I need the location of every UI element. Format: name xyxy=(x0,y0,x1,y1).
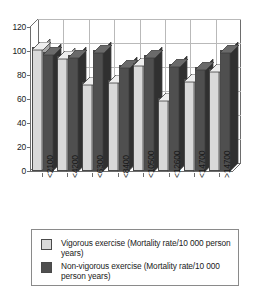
y-tick-label-60: 60 xyxy=(0,95,26,104)
x-tick-mark-7 xyxy=(219,173,220,177)
legend-label-vigorous: Vigorous exercise (Mortality rate/10 000… xyxy=(61,238,233,258)
y-tick-mark-100 xyxy=(27,51,31,52)
x-tick-mark-5 xyxy=(169,173,170,177)
chart-legend: Vigorous exercise (Mortality rate/10 000… xyxy=(31,229,239,286)
x-tick-mark-2 xyxy=(92,173,93,177)
y-tick-label-120: 120 xyxy=(0,23,26,32)
y-tick-mark-0 xyxy=(27,171,31,172)
y-tick-label-100: 100 xyxy=(0,47,26,56)
y-tick-mark-60 xyxy=(27,99,31,100)
legend-item-vigorous: Vigorous exercise (Mortality rate/10 000… xyxy=(41,238,233,258)
bar-vigorous-0 xyxy=(32,47,43,171)
bar-chart-figure: 020406080100120 <2100<4200<6300<8400<105… xyxy=(0,0,254,293)
x-tick-label-4: <10500 xyxy=(147,132,156,178)
y-tick-mark-120 xyxy=(27,27,31,28)
x-tick-label-6: <14700 xyxy=(198,132,207,178)
y-tick-label-40: 40 xyxy=(0,119,26,128)
x-tick-mark-0 xyxy=(42,173,43,177)
x-tick-label-1: <4200 xyxy=(71,132,80,178)
x-tick-mark-6 xyxy=(194,173,195,177)
legend-swatch-vigorous xyxy=(41,239,52,250)
bar-vigorous-7 xyxy=(209,69,220,171)
y-tick-mark-80 xyxy=(27,75,31,76)
bar-vigorous-6 xyxy=(184,79,195,171)
x-tick-mark-1 xyxy=(67,173,68,177)
legend-label-non-vigorous: Non-vigorous exercise (Mortality rate/10… xyxy=(61,261,233,281)
x-tick-label-2: <6300 xyxy=(96,132,105,178)
x-tick-label-5: <12600 xyxy=(173,132,182,178)
y-tick-label-80: 80 xyxy=(0,71,26,80)
x-tick-mark-3 xyxy=(118,173,119,177)
legend-swatch-non-vigorous xyxy=(41,262,52,273)
bar-vigorous-5 xyxy=(158,98,169,171)
x-tick-label-3: <8400 xyxy=(122,132,131,178)
x-tick-label-7: >14700 xyxy=(223,132,232,178)
bar-vigorous-2 xyxy=(82,82,93,171)
x-tick-label-0: <2100 xyxy=(46,132,55,178)
y-tick-label-0: 0 xyxy=(0,167,26,176)
bar-vigorous-4 xyxy=(133,63,144,171)
y-tick-mark-20 xyxy=(27,147,31,148)
bar-vigorous-3 xyxy=(108,80,119,171)
x-tick-mark-4 xyxy=(143,173,144,177)
bar-top-face xyxy=(220,45,237,51)
bar-vigorous-1 xyxy=(57,56,68,171)
y-tick-mark-40 xyxy=(27,123,31,124)
legend-item-non-vigorous: Non-vigorous exercise (Mortality rate/10… xyxy=(41,261,233,281)
y-tick-label-20: 20 xyxy=(0,143,26,152)
